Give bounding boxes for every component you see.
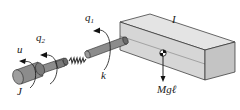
label-k: k bbox=[101, 70, 106, 81]
flexible-joint-diagram bbox=[0, 0, 240, 110]
label-q1: q1 bbox=[85, 12, 94, 25]
label-u: u bbox=[17, 44, 23, 55]
spring-icon bbox=[69, 58, 86, 63]
motor-rotor bbox=[11, 61, 46, 85]
label-I: I bbox=[172, 14, 176, 25]
label-Mgl: Mgℓ bbox=[157, 84, 176, 95]
label-q1-sub: 1 bbox=[91, 17, 95, 25]
label-J: J bbox=[17, 86, 22, 97]
link-box bbox=[120, 14, 235, 80]
center-of-mass-icon bbox=[160, 50, 166, 56]
label-q2: q2 bbox=[36, 32, 45, 45]
label-q2-sub: 2 bbox=[42, 37, 46, 45]
